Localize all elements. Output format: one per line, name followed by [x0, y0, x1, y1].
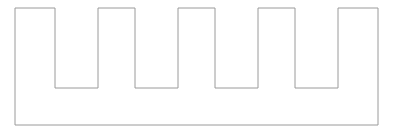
drawing-canvas [0, 0, 393, 135]
comb-outline-path [15, 8, 378, 125]
comb-outline-figure [0, 0, 393, 135]
